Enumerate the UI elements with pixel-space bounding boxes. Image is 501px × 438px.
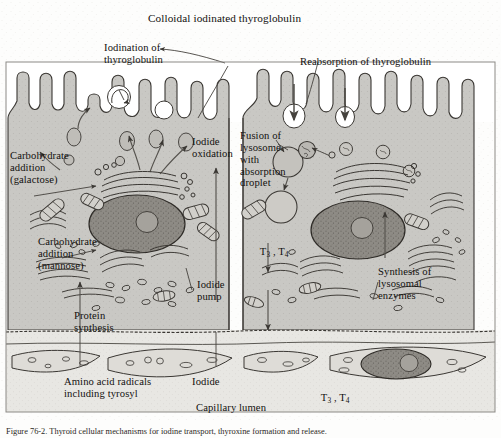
t4-base: T xyxy=(278,246,285,257)
nucleolus-right xyxy=(351,218,373,239)
thyroid-cell-figure: Colloidal iodinated thyroglobulin Iodina… xyxy=(0,0,501,438)
endothelial-nucleus xyxy=(361,349,431,379)
label-protein-synthesis: Protein synthesis xyxy=(74,310,114,334)
label-fusion-lysosome: Fusion of lysosome with absorption dropl… xyxy=(240,130,286,189)
label-t3-t4-cell: T3 , T4 xyxy=(249,234,289,271)
colloid-pit-left-2 xyxy=(155,101,173,119)
t4-subscript: 4 xyxy=(285,250,289,259)
figure-title: Colloidal iodinated thyroglobulin xyxy=(148,12,301,25)
label-t3-t4-blood: T3 , T4 xyxy=(310,380,350,417)
label-carbohydrate-mannose: Carbohydrate addition (mannose) xyxy=(38,236,97,272)
label-lysosomal-synthesis: Synthesis of lysosomal enzymes xyxy=(378,266,431,302)
label-iodide-oxidation: Iodide oxidation xyxy=(192,136,233,160)
endothelial-nucleolus xyxy=(400,354,418,371)
label-carbohydrate-galactose: Carbohydrate addition (galactose) xyxy=(10,150,69,186)
figure-caption: Figure 76-2. Thyroid cellular mechanisms… xyxy=(6,427,327,438)
t4-subscript-blood: 4 xyxy=(346,396,350,405)
nucleolus-left xyxy=(136,212,158,233)
label-reabsorption: Reabsorption of thyroglobulin xyxy=(300,56,431,68)
label-iodination: Iodination of thyroglobulin xyxy=(104,42,163,66)
label-iodide-pump: Iodide pump xyxy=(197,279,225,303)
t4-base-blood: T xyxy=(339,392,346,403)
label-amino-acid-radicals: Amino acid radicals including tyrosyl xyxy=(64,376,151,400)
colloid-droplet xyxy=(265,191,297,223)
label-iodide: Iodide xyxy=(192,376,220,388)
label-capillary-lumen: Capillary lumen xyxy=(196,402,266,414)
colloid-pit-left xyxy=(108,86,131,109)
